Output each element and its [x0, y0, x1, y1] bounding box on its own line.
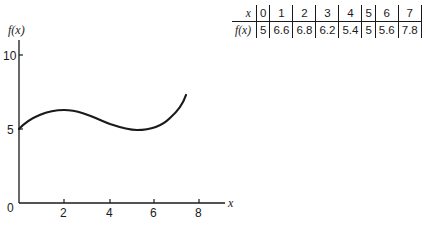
table-cell: 3: [316, 5, 339, 22]
y-axis-label: f(x): [8, 23, 25, 37]
f-curve: [19, 95, 186, 130]
table-cell: 6.8: [293, 22, 316, 39]
table-cell: 5: [362, 22, 375, 39]
table-cell: 5.6: [375, 22, 398, 39]
table-cell: 5: [362, 5, 375, 22]
x-tick-label-6: 6: [150, 206, 157, 220]
y-tick-label-5: 5: [7, 123, 14, 137]
table-header-x: x: [232, 5, 256, 22]
table-cell: 6.6: [270, 22, 293, 39]
values-table: x 0 1 2 3 4 5 6 7 f(x) 5 6.6 6.8 6.2 5.4…: [232, 5, 422, 38]
origin-label: 0: [7, 201, 14, 215]
table-cell: 5: [256, 22, 269, 39]
x-tick-label-8: 8: [195, 206, 202, 220]
table-row-f: f(x) 5 6.6 6.8 6.2 5.4 5 5.6 7.8: [232, 22, 421, 39]
table-cell: 7.8: [398, 22, 421, 39]
table-cell: 7: [398, 5, 421, 22]
x-axis-label: x: [227, 196, 234, 210]
table-cell: 2: [293, 5, 316, 22]
table-row-x: x 0 1 2 3 4 5 6 7: [232, 5, 421, 22]
table-cell: 1: [270, 5, 293, 22]
x-tick-label-4: 4: [106, 206, 113, 220]
x-tick-label-2: 2: [60, 206, 67, 220]
table-cell: 6.2: [316, 22, 339, 39]
table-cell: 0: [256, 5, 269, 22]
table-cell: 5.4: [339, 22, 362, 39]
table-cell: 6: [375, 5, 398, 22]
table-header-f: f(x): [232, 22, 256, 39]
table-cell: 4: [339, 5, 362, 22]
y-tick-label-10: 10: [3, 49, 17, 63]
